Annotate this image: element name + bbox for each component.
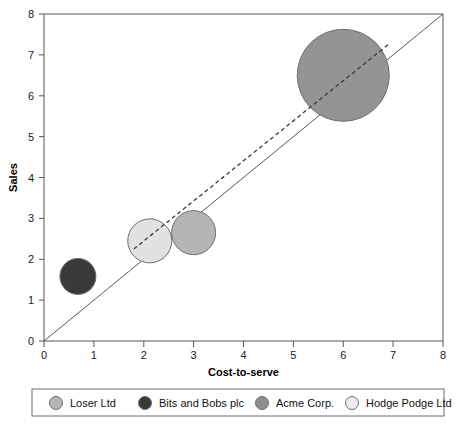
x-tick-label-2: 2: [141, 349, 147, 361]
bubble-acme-corp[interactable]: [297, 29, 389, 121]
y-tick-label-3: 3: [28, 212, 34, 224]
x-tick-label-3: 3: [191, 349, 197, 361]
y-tick-label-0: 0: [28, 335, 34, 347]
y-axis-title: Sales: [7, 163, 19, 192]
x-tick-label-7: 7: [390, 349, 396, 361]
chart-canvas: 8 7 6 5 4 3 2 1 0 0 1 2 3 4: [0, 0, 464, 430]
bubble-series: [60, 29, 389, 294]
y-axis-tick-labels: 8 7 6 5 4 3 2 1 0: [28, 8, 34, 347]
legend-marker-loser-ltd: [50, 397, 63, 410]
x-tick-label-8: 8: [440, 349, 446, 361]
x-axis-title: Cost-to-serve: [208, 366, 279, 378]
y-tick-label-4: 4: [28, 172, 34, 184]
legend: Loser Ltd Bits and Bobs plc Acme Corp. H…: [32, 389, 452, 416]
legend-label-loser-ltd[interactable]: Loser Ltd: [70, 397, 116, 409]
legend-label-acme-corp[interactable]: Acme Corp.: [276, 397, 334, 409]
x-axis-ticks: [44, 341, 443, 347]
bubble-hodge-podge-ltd[interactable]: [128, 219, 172, 263]
x-tick-label-4: 4: [240, 349, 246, 361]
legend-label-hodge-podge-ltd[interactable]: Hodge Podge Ltd: [366, 397, 452, 409]
y-tick-label-5: 5: [28, 131, 34, 143]
x-tick-label-6: 6: [340, 349, 346, 361]
y-tick-label-6: 6: [28, 90, 34, 102]
x-tick-label-1: 1: [91, 349, 97, 361]
x-axis-tick-labels: 0 1 2 3 4 5 6 7 8: [41, 349, 446, 361]
legend-marker-hodge-podge-ltd: [346, 397, 359, 410]
bubble-loser-ltd[interactable]: [172, 211, 216, 255]
y-axis-ticks: [39, 14, 44, 341]
y-tick-label-2: 2: [28, 253, 34, 265]
y-tick-label-7: 7: [28, 49, 34, 61]
bubble-chart: 8 7 6 5 4 3 2 1 0 0 1 2 3 4: [0, 0, 464, 430]
x-tick-label-0: 0: [41, 349, 47, 361]
legend-marker-acme-corp: [256, 397, 269, 410]
legend-marker-bits-and-bobs-plc: [139, 397, 152, 410]
bubble-bits-and-bobs-plc[interactable]: [60, 258, 96, 294]
y-tick-label-1: 1: [28, 294, 34, 306]
y-tick-label-8: 8: [28, 8, 34, 20]
legend-label-bits-and-bobs-plc[interactable]: Bits and Bobs plc: [159, 397, 244, 409]
x-tick-label-5: 5: [290, 349, 296, 361]
